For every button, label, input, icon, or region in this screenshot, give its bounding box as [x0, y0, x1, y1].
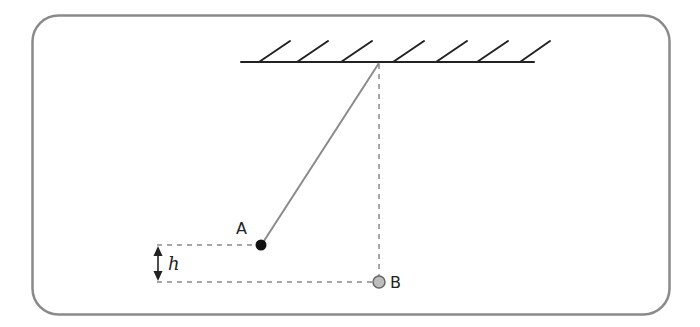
ball-b — [373, 276, 385, 288]
ball-a — [256, 240, 267, 251]
point-b-label: B — [390, 273, 401, 292]
diagram-frame — [33, 16, 670, 315]
point-a-label: A — [236, 219, 247, 238]
height-label: h — [168, 253, 180, 274]
pendulum-diagram: h A B — [0, 0, 700, 327]
